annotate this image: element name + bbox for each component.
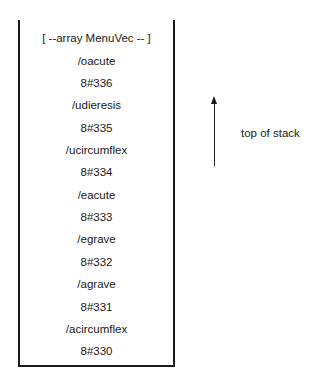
stack-item: 8#333 xyxy=(20,208,173,226)
stack-item: /ucircumflex xyxy=(20,141,173,159)
stack-item: /acircumflex xyxy=(20,320,173,338)
stack-item: /agrave xyxy=(20,275,173,293)
stack-item: /egrave xyxy=(20,230,173,248)
arrow-shaft xyxy=(214,102,215,166)
stack-item: 8#336 xyxy=(20,74,173,92)
up-arrow-icon xyxy=(214,96,216,166)
stack-item: [ --array MenuVec -- ] xyxy=(20,29,173,47)
stack-item: /udieresis xyxy=(20,96,173,114)
stack-item: /oacute xyxy=(20,52,173,70)
stack-item: 8#330 xyxy=(20,342,173,360)
operand-stack-box: [ --array MenuVec -- ] /oacute 8#336 /ud… xyxy=(18,20,175,367)
stack-item: 8#331 xyxy=(20,298,173,316)
top-of-stack-label: top of stack xyxy=(241,127,300,139)
stack-item: 8#332 xyxy=(20,253,173,271)
stack-item: 8#334 xyxy=(20,163,173,181)
stack-item: /eacute xyxy=(20,186,173,204)
stack-item: 8#335 xyxy=(20,119,173,137)
